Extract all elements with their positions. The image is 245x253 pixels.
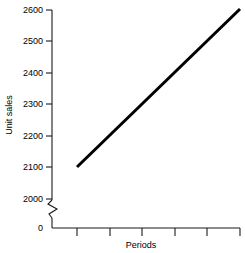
chart-container: 2600 2500 2400 2300 2200 2100 2000 0 Per… [0, 0, 245, 253]
y-tick-label-2300: 2300 [23, 99, 43, 109]
y-tick-label-2000: 2000 [23, 194, 43, 204]
unit-sales-line-chart: 2600 2500 2400 2300 2200 2100 2000 0 Per… [0, 0, 245, 253]
y-tick-label-2500: 2500 [23, 36, 43, 46]
y-tick-label-2600: 2600 [23, 5, 43, 15]
y-axis-title: Unit sales [4, 95, 14, 135]
y-tick-label-2100: 2100 [23, 162, 43, 172]
y-tick-label-2200: 2200 [23, 131, 43, 141]
y-tick-label-2400: 2400 [23, 68, 43, 78]
x-axis-title: Periods [126, 240, 157, 250]
y-tick-label-0: 0 [38, 223, 43, 233]
